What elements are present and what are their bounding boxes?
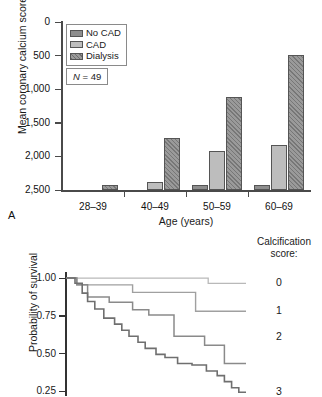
- y-tick-label-a: 2,000: [0, 151, 50, 161]
- legend-label-no-cad: No CAD: [86, 28, 121, 38]
- survival-curve-score-3: [66, 278, 246, 392]
- survival-legend-key-2: 2: [276, 331, 282, 342]
- bar-cad-40-49: [147, 182, 164, 190]
- legend-label-dialysis: Dialysis: [86, 51, 119, 61]
- y-tick-a: [55, 190, 61, 191]
- legend-swatch-cad-icon: [70, 41, 83, 48]
- sample-size-symbol: N: [73, 71, 80, 82]
- y-tick-a: [55, 22, 61, 23]
- y-tick-label-a: 500: [0, 51, 50, 61]
- bar-dialysis-28-39: [102, 185, 119, 190]
- bar-no-cad-60-69: [254, 185, 271, 190]
- y-tick-label-a: 2,500: [0, 185, 50, 195]
- survival-legend-title-line2: score:: [249, 248, 319, 260]
- survival-legend-key-1: 1: [276, 305, 282, 316]
- legend-swatch-dialysis-icon: [70, 53, 83, 60]
- y-tick-label-b: 0.25: [6, 386, 56, 396]
- y-tick-a: [55, 156, 61, 157]
- y-tick-b: [59, 278, 65, 279]
- legend-label-cad: CAD: [86, 40, 106, 50]
- panel-a-bar-chart: Mean coronary calcium score 2,5002,0001,…: [0, 0, 322, 232]
- x-axis-label-a: Age (years): [61, 216, 311, 227]
- x-category-label-a: 40–49: [123, 201, 187, 212]
- bar-no-cad-50-59: [192, 185, 209, 190]
- panel-letter-a: A: [8, 209, 15, 221]
- bar-chart-legend: No CAD CAD Dialysis: [66, 24, 127, 66]
- y-tick-label-a: 1,000: [0, 84, 50, 94]
- bar-cad-60-69: [271, 145, 288, 190]
- y-tick-label-a: 0: [0, 17, 50, 27]
- survival-legend-title-line1: Calcification: [249, 236, 319, 248]
- y-tick-b: [59, 353, 65, 354]
- sample-size-value: = 49: [80, 71, 101, 82]
- survival-plot-area: [66, 275, 246, 396]
- bar-cad-50-59: [209, 151, 226, 190]
- y-tick-label-b: 1.00: [6, 273, 56, 283]
- panel-b-survival-chart: Probability of survival 0.250.500.751.00…: [0, 232, 322, 394]
- bar-dialysis-60-69: [288, 55, 305, 190]
- y-tick-label-b: 0.50: [6, 349, 56, 359]
- legend-item-no-cad: No CAD: [70, 28, 121, 39]
- x-tick-a: [186, 191, 187, 197]
- y-tick-a: [55, 89, 61, 90]
- bar-dialysis-40-49: [164, 138, 181, 190]
- x-category-label-a: 50–59: [185, 201, 249, 212]
- x-tick-a: [124, 191, 125, 197]
- x-tick-a: [248, 191, 249, 197]
- bar-dialysis-50-59: [226, 97, 243, 190]
- legend-swatch-no-cad-icon: [70, 30, 83, 37]
- y-tick-label-a: 1,500: [0, 118, 50, 128]
- survival-legend-title: Calcification score:: [249, 236, 319, 260]
- y-tick-a: [55, 55, 61, 56]
- legend-item-dialysis: Dialysis: [70, 51, 121, 62]
- sample-size-annotation: N = 49: [66, 68, 108, 85]
- survival-legend-key-0: 0: [276, 277, 282, 288]
- survival-legend-key-3: 3: [276, 386, 282, 397]
- survival-curves-svg: [66, 275, 246, 396]
- x-category-label-a: 60–69: [247, 201, 311, 212]
- y-tick-b: [59, 391, 65, 392]
- x-category-label-a: 28–39: [61, 201, 125, 212]
- y-tick-label-b: 0.75: [6, 311, 56, 321]
- legend-item-cad: CAD: [70, 39, 121, 50]
- survival-curve-score-0: [66, 278, 246, 283]
- y-tick-b: [59, 315, 65, 316]
- y-tick-a: [55, 122, 61, 123]
